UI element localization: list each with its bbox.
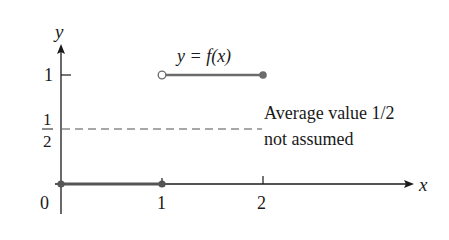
function-label: y = f(x) <box>177 47 231 65</box>
tick-label-y1: 1 <box>44 66 53 84</box>
tick-label-x0: 0 <box>40 194 49 212</box>
tick-label-x2: 2 <box>257 194 266 212</box>
closed-point-2 <box>259 71 267 79</box>
closed-point-0 <box>57 180 64 187</box>
average-label-line1: Average value 1/2 <box>264 104 395 122</box>
y-axis-label: y <box>55 22 63 41</box>
average-label-line2: not assumed <box>264 130 354 148</box>
tick-label-x1: 1 <box>157 194 166 212</box>
tick-label-half-den: 2 <box>43 133 52 150</box>
x-axis-label: x <box>419 175 427 194</box>
closed-point-1 <box>158 180 165 187</box>
open-point-1 <box>158 71 166 79</box>
tick-label-half-num: 1 <box>43 111 52 128</box>
